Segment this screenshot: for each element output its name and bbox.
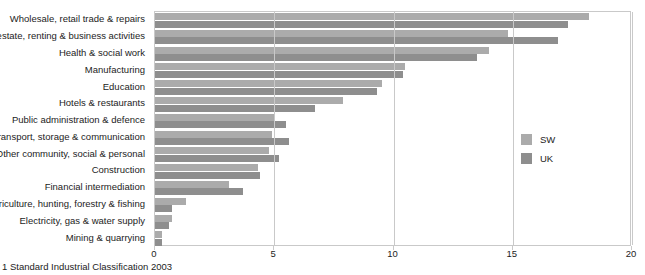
category-label: Wholesale, retail trade & repairs [10, 13, 145, 24]
bar-uk [155, 239, 162, 246]
bar-uk [155, 222, 169, 229]
bar-row [155, 230, 630, 247]
x-axis-tick-label: 15 [506, 248, 517, 259]
category-label: Manufacturing [85, 64, 145, 75]
bar-row [155, 12, 630, 29]
category-label: Health & social work [59, 47, 145, 58]
bar-sw [155, 47, 489, 54]
category-label: Hotels & restaurants [59, 97, 145, 108]
bar-row [155, 197, 630, 214]
bar-uk [155, 138, 289, 145]
bar-sw [155, 131, 272, 138]
bar-row [155, 29, 630, 46]
category-label: Agriculture, hunting, forestry & fishing [0, 198, 145, 209]
x-axis-tick-label: 20 [626, 248, 637, 259]
legend-swatch-icon [521, 153, 532, 164]
bar-sw [155, 231, 162, 238]
bar-row [155, 113, 630, 130]
bar-row [155, 180, 630, 197]
footnote: 1 Standard Industrial Classification 200… [2, 261, 172, 272]
category-label: Other community, social & personal [0, 148, 145, 159]
category-label: Transport, storage & communication [0, 131, 145, 142]
bar-sw [155, 181, 229, 188]
bar-sw [155, 164, 258, 171]
category-label: Financial intermediation [45, 181, 145, 192]
bar-sw [155, 63, 405, 70]
bar-chart: Wholesale, retail trade & repairsReal es… [0, 0, 645, 275]
bar-sw [155, 215, 172, 222]
legend-item-uk[interactable]: UK [521, 150, 555, 166]
bar-uk [155, 172, 260, 179]
bar-row [155, 163, 630, 180]
bar-row [155, 146, 630, 163]
bar-rows [155, 12, 630, 245]
legend-swatch-icon [521, 134, 532, 145]
bar-uk [155, 71, 403, 78]
bar-uk [155, 21, 568, 28]
bar-uk [155, 88, 377, 95]
category-label: Construction [92, 164, 145, 175]
bar-sw [155, 114, 274, 121]
legend-item-sw[interactable]: SW [521, 131, 555, 147]
bar-row [155, 96, 630, 113]
gridline [513, 12, 514, 245]
bar-row [155, 46, 630, 63]
bar-row [155, 213, 630, 230]
bar-sw [155, 147, 269, 154]
plot-area [154, 11, 631, 246]
category-label: Education [103, 81, 145, 92]
bar-sw [155, 80, 382, 87]
bar-uk [155, 105, 315, 112]
category-axis-labels: Wholesale, retail trade & repairsReal es… [0, 11, 150, 246]
x-axis-tick-label: 10 [387, 248, 398, 259]
chart-legend: SWUK [521, 131, 555, 169]
category-label: Electricity, gas & water supply [20, 215, 145, 226]
x-axis-tick-label: 0 [151, 248, 156, 259]
bar-sw [155, 13, 589, 20]
bar-row [155, 62, 630, 79]
bar-uk [155, 37, 558, 44]
bar-row [155, 130, 630, 147]
gridline [394, 12, 395, 245]
bar-uk [155, 188, 243, 195]
bar-sw [155, 198, 186, 205]
gridline [274, 12, 275, 245]
bar-uk [155, 155, 279, 162]
category-label: Real estate, renting & business activiti… [0, 30, 145, 41]
bar-sw [155, 30, 508, 37]
bar-uk [155, 121, 286, 128]
bar-row [155, 79, 630, 96]
category-label: Public administration & defence [12, 114, 145, 125]
category-label: Mining & quarrying [66, 232, 145, 243]
x-axis-tick-label: 5 [271, 248, 276, 259]
bar-uk [155, 54, 477, 61]
gridline [632, 12, 633, 245]
bar-uk [155, 205, 172, 212]
bar-sw [155, 97, 343, 104]
legend-label: SW [540, 134, 555, 145]
legend-label: UK [540, 153, 553, 164]
